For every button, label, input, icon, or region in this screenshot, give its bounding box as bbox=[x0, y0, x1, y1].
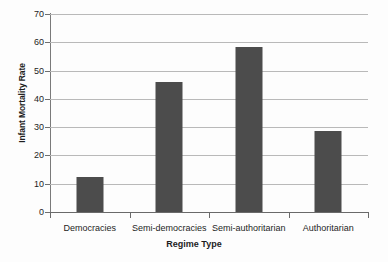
x-tick-mark bbox=[368, 213, 369, 218]
bar[interactable] bbox=[76, 177, 103, 212]
bars-group bbox=[50, 14, 368, 212]
bar-slot bbox=[50, 14, 130, 212]
x-tick-mark bbox=[50, 213, 51, 218]
bar-slot bbox=[130, 14, 210, 212]
y-tick-mark bbox=[45, 184, 50, 185]
x-category-label: Semi-authoritarian bbox=[209, 223, 289, 233]
y-tick-label: 70 bbox=[16, 9, 44, 19]
y-tick-mark bbox=[45, 127, 50, 128]
bar-slot bbox=[209, 14, 289, 212]
y-tick-label: 10 bbox=[16, 179, 44, 189]
x-tick-mark bbox=[289, 213, 290, 218]
x-category-label: Democracies bbox=[50, 223, 130, 233]
y-tick-label: 60 bbox=[16, 37, 44, 47]
x-tick-mark bbox=[130, 213, 131, 218]
bar-chart-figure: Infant Mortality Rate 010203040506070 De… bbox=[0, 0, 388, 262]
y-tick-label: 20 bbox=[16, 150, 44, 160]
y-tick-label: 50 bbox=[16, 66, 44, 76]
x-tick-mark bbox=[209, 213, 210, 218]
y-tick-mark bbox=[45, 42, 50, 43]
y-tick-mark bbox=[45, 14, 50, 15]
plot-area bbox=[50, 14, 368, 212]
x-category-label: Authoritarian bbox=[289, 223, 369, 233]
y-tick-label: 40 bbox=[16, 94, 44, 104]
bar[interactable] bbox=[156, 82, 183, 212]
bar-slot bbox=[289, 14, 369, 212]
bar[interactable] bbox=[235, 47, 262, 212]
bar[interactable] bbox=[315, 131, 342, 212]
y-tick-mark bbox=[45, 212, 50, 213]
y-tick-label: 0 bbox=[16, 207, 44, 217]
y-tick-mark bbox=[45, 71, 50, 72]
y-axis-tick-labels: 010203040506070 bbox=[16, 14, 44, 212]
y-tick-mark bbox=[45, 155, 50, 156]
y-tick-label: 30 bbox=[16, 122, 44, 132]
y-tick-mark bbox=[45, 99, 50, 100]
x-axis-title: Regime Type bbox=[0, 239, 388, 249]
x-category-label: Semi-democracies bbox=[130, 223, 210, 233]
